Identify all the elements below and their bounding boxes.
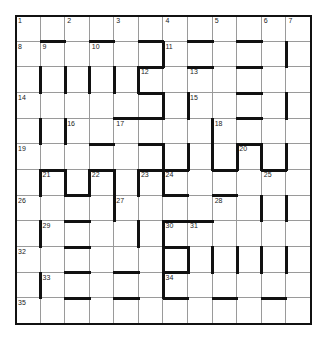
grid-cell[interactable] (65, 196, 90, 222)
grid-cell[interactable]: 23 (139, 170, 164, 196)
grid-cell[interactable] (237, 298, 262, 324)
grid-cell[interactable] (90, 16, 115, 42)
grid-cell[interactable] (114, 298, 139, 324)
grid-cell[interactable] (188, 247, 213, 273)
grid-cell[interactable] (139, 247, 164, 273)
grid-cell[interactable]: 3 (114, 16, 139, 42)
grid-cell[interactable]: 34 (164, 273, 189, 299)
grid-cell[interactable]: 11 (164, 42, 189, 68)
grid-cell[interactable] (90, 247, 115, 273)
grid-cell[interactable]: 32 (16, 247, 41, 273)
grid-cell[interactable] (164, 247, 189, 273)
grid-cell[interactable]: 2 (65, 16, 90, 42)
grid-cell[interactable] (114, 247, 139, 273)
grid-cell[interactable] (286, 42, 311, 68)
grid-cell[interactable]: 5 (213, 16, 238, 42)
grid-cell[interactable] (65, 221, 90, 247)
grid-cell[interactable] (262, 119, 287, 145)
grid-cell[interactable] (262, 144, 287, 170)
grid-cell[interactable] (114, 273, 139, 299)
grid-cell[interactable]: 31 (188, 221, 213, 247)
grid-cell[interactable] (16, 273, 41, 299)
grid-cell[interactable] (164, 298, 189, 324)
grid-cell[interactable] (41, 196, 66, 222)
grid-cell[interactable]: 16 (65, 119, 90, 145)
grid-cell[interactable] (90, 67, 115, 93)
grid-cell[interactable]: 15 (188, 93, 213, 119)
grid-cell[interactable] (139, 93, 164, 119)
grid-cell[interactable] (213, 221, 238, 247)
grid-cell[interactable]: 18 (213, 119, 238, 145)
grid-cell[interactable] (237, 119, 262, 145)
grid-cell[interactable] (188, 196, 213, 222)
grid-cell[interactable] (262, 273, 287, 299)
grid-cell[interactable] (164, 196, 189, 222)
grid-cell[interactable] (213, 42, 238, 68)
grid-cell[interactable] (65, 42, 90, 68)
grid-cell[interactable] (164, 93, 189, 119)
grid-cell[interactable] (41, 16, 66, 42)
grid-cell[interactable] (213, 67, 238, 93)
grid-cell[interactable] (213, 298, 238, 324)
grid-cell[interactable] (286, 221, 311, 247)
grid-cell[interactable] (237, 170, 262, 196)
grid-cell[interactable] (41, 67, 66, 93)
grid-cell[interactable] (262, 67, 287, 93)
grid-cell[interactable] (188, 16, 213, 42)
grid-cell[interactable] (213, 144, 238, 170)
grid-cell[interactable] (16, 119, 41, 145)
grid-cell[interactable] (16, 221, 41, 247)
grid-cell[interactable]: 28 (213, 196, 238, 222)
grid-cell[interactable] (164, 144, 189, 170)
grid-cell[interactable] (139, 298, 164, 324)
grid-cell[interactable] (139, 119, 164, 145)
grid-cell[interactable]: 20 (237, 144, 262, 170)
grid-cell[interactable] (237, 221, 262, 247)
grid-cell[interactable] (188, 119, 213, 145)
grid-cell[interactable] (188, 144, 213, 170)
grid-cell[interactable] (188, 298, 213, 324)
grid-cell[interactable] (286, 273, 311, 299)
grid-cell[interactable] (139, 196, 164, 222)
grid-cell[interactable] (286, 144, 311, 170)
grid-cell[interactable] (262, 42, 287, 68)
grid-cell[interactable] (114, 67, 139, 93)
grid-cell[interactable]: 7 (286, 16, 311, 42)
grid-cell[interactable] (114, 42, 139, 68)
grid-cell[interactable] (237, 42, 262, 68)
grid-cell[interactable] (262, 221, 287, 247)
grid-cell[interactable]: 19 (16, 144, 41, 170)
grid-cell[interactable] (139, 273, 164, 299)
grid-cell[interactable] (90, 196, 115, 222)
grid-cell[interactable]: 4 (164, 16, 189, 42)
grid-cell[interactable] (41, 93, 66, 119)
grid-cell[interactable]: 9 (41, 42, 66, 68)
grid-cell[interactable]: 24 (164, 170, 189, 196)
grid-cell[interactable] (286, 119, 311, 145)
grid-cell[interactable] (114, 221, 139, 247)
grid-cell[interactable]: 27 (114, 196, 139, 222)
grid-cell[interactable] (262, 247, 287, 273)
grid-cell[interactable] (286, 170, 311, 196)
grid-cell[interactable] (237, 273, 262, 299)
grid-cell[interactable]: 10 (90, 42, 115, 68)
grid-cell[interactable] (65, 93, 90, 119)
grid-cell[interactable] (286, 93, 311, 119)
grid-cell[interactable] (65, 273, 90, 299)
grid-cell[interactable]: 12 (139, 67, 164, 93)
grid-cell[interactable] (213, 273, 238, 299)
grid-cell[interactable]: 17 (114, 119, 139, 145)
grid-cell[interactable] (139, 221, 164, 247)
grid-cell[interactable] (90, 119, 115, 145)
grid-cell[interactable] (139, 144, 164, 170)
grid-cell[interactable]: 21 (41, 170, 66, 196)
grid-cell[interactable] (139, 42, 164, 68)
grid-cell[interactable] (41, 247, 66, 273)
grid-cell[interactable]: 33 (41, 273, 66, 299)
grid-cell[interactable] (16, 67, 41, 93)
grid-cell[interactable] (65, 247, 90, 273)
grid-cell[interactable] (213, 247, 238, 273)
grid-cell[interactable] (188, 42, 213, 68)
grid-cell[interactable]: 8 (16, 42, 41, 68)
grid-cell[interactable] (237, 196, 262, 222)
